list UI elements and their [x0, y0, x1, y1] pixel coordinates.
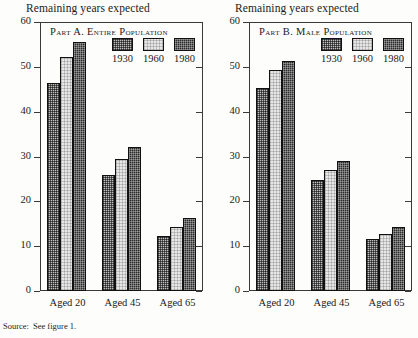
y-axis-tick-right [196, 246, 202, 247]
legend-item-1980: 1980 [170, 38, 199, 66]
y-axis-label: 60 [214, 16, 240, 27]
legend-item-1960: 1960 [139, 38, 168, 66]
y-axis-tick [243, 246, 249, 247]
x-axis-label-aged-20: Aged 20 [248, 297, 305, 308]
y-axis-tick [34, 22, 40, 23]
y-axis-label: 40 [214, 106, 240, 117]
bar-1980-aged-20 [282, 61, 295, 291]
bar-1930-aged-65 [366, 239, 379, 291]
y-axis-tick [34, 112, 40, 113]
bar-1930-aged-65 [157, 236, 170, 291]
legend-swatch-1960 [352, 38, 373, 51]
legend-item-1930: 1930 [317, 38, 346, 66]
bar-1960-aged-20 [269, 70, 282, 291]
legend-label-1930: 1930 [108, 53, 137, 64]
source-label: Source: [3, 321, 29, 331]
y-axis-tick-right [405, 112, 411, 113]
y-axis-tick-right [405, 22, 411, 23]
legend-label-1930: 1930 [317, 53, 346, 64]
chart-panel-part-a: Remaining years expected Part A. Entire … [0, 0, 209, 316]
y-axis-title: Remaining years expected [26, 2, 150, 14]
bar-1960-aged-45 [324, 170, 337, 291]
bar-group [47, 22, 88, 291]
y-axis-title: Remaining years expected [235, 2, 359, 14]
bar-1980-aged-65 [392, 227, 405, 291]
bar-1960-aged-20 [60, 57, 73, 291]
y-axis-tick-right [405, 67, 411, 68]
y-axis-tick [243, 201, 249, 202]
bar-1930-aged-20 [256, 88, 269, 291]
legend-swatch-1960 [143, 38, 164, 51]
legend-part-b: 193019601980 [317, 38, 412, 68]
y-axis-tick [243, 67, 249, 68]
legend-swatch-1980 [383, 38, 404, 51]
bar-1980-aged-45 [128, 147, 141, 291]
bar-group [256, 22, 297, 291]
legend-part-a: 193019601980 [108, 38, 203, 68]
y-axis-tick-right [196, 112, 202, 113]
y-axis-tick [34, 67, 40, 68]
source-text: See figure 1. [33, 321, 76, 331]
y-axis-label: 40 [5, 106, 31, 117]
bar-1980-aged-20 [73, 42, 86, 291]
legend-label-1960: 1960 [348, 53, 377, 64]
source-note: Source:See figure 1. [3, 321, 76, 331]
y-axis-label: 50 [5, 61, 31, 72]
y-axis-label: 30 [214, 151, 240, 162]
y-axis-tick [34, 201, 40, 202]
bar-1930-aged-20 [47, 83, 60, 291]
bar-1960-aged-65 [379, 234, 392, 291]
bar-1930-aged-45 [102, 175, 115, 291]
bar-1930-aged-45 [311, 180, 324, 291]
bar-1980-aged-65 [183, 218, 196, 291]
y-axis-tick [34, 291, 40, 292]
y-axis-tick-right [196, 67, 202, 68]
y-axis-tick-right [405, 201, 411, 202]
bar-1980-aged-45 [337, 161, 350, 291]
y-axis-label: 50 [214, 61, 240, 72]
legend-item-1930: 1930 [108, 38, 137, 66]
chart-panel-part-b: Remaining years expected Part B. Male Po… [209, 0, 418, 316]
bar-1960-aged-45 [115, 159, 128, 291]
figure-remaining-years-expected: Remaining years expected Part A. Entire … [0, 0, 418, 338]
x-axis-label-aged-65: Aged 65 [149, 297, 206, 308]
y-axis-tick [243, 112, 249, 113]
y-axis-label: 10 [5, 240, 31, 251]
x-axis-label-aged-45: Aged 45 [94, 297, 151, 308]
legend-label-1980: 1980 [170, 53, 199, 64]
y-axis-tick-right [196, 291, 202, 292]
legend-swatch-1980 [174, 38, 195, 51]
legend-swatch-1930 [112, 38, 133, 51]
x-axis-label-aged-45: Aged 45 [303, 297, 360, 308]
x-axis-label-aged-65: Aged 65 [358, 297, 415, 308]
y-axis-label: 0 [214, 285, 240, 296]
y-axis-label: 20 [5, 195, 31, 206]
bar-1960-aged-65 [170, 227, 183, 291]
y-axis-tick-right [405, 157, 411, 158]
y-axis-tick [243, 22, 249, 23]
legend-item-1980: 1980 [379, 38, 408, 66]
legend-label-1960: 1960 [139, 53, 168, 64]
legend-item-1960: 1960 [348, 38, 377, 66]
y-axis-label: 60 [5, 16, 31, 27]
x-axis-label-aged-20: Aged 20 [39, 297, 96, 308]
y-axis-tick-right [405, 246, 411, 247]
y-axis-tick-right [405, 291, 411, 292]
y-axis-label: 0 [5, 285, 31, 296]
y-axis-label: 20 [214, 195, 240, 206]
y-axis-tick [243, 157, 249, 158]
y-axis-tick-right [196, 157, 202, 158]
y-axis-label: 10 [214, 240, 240, 251]
y-axis-tick [34, 246, 40, 247]
y-axis-tick [34, 157, 40, 158]
legend-swatch-1930 [321, 38, 342, 51]
y-axis-tick [243, 291, 249, 292]
legend-label-1980: 1980 [379, 53, 408, 64]
y-axis-tick-right [196, 22, 202, 23]
y-axis-label: 30 [5, 151, 31, 162]
y-axis-tick-right [196, 201, 202, 202]
